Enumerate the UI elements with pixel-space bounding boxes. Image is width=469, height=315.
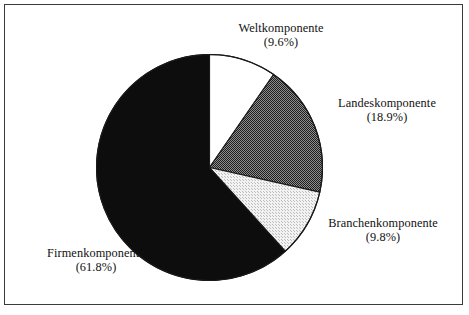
pie-label-landeskomponente-percent: (18.9%) — [313, 111, 461, 125]
pie-label-branchenkomponente-name: Branchenkomponente — [303, 217, 463, 231]
pie-label-branchenkomponente-percent: (9.8%) — [303, 231, 463, 245]
pie-label-weltkomponente-name: Weltkomponente — [215, 22, 347, 36]
pie-label-firmenkomponente-percent: (61.8%) — [20, 261, 172, 275]
pie-label-firmenkomponente: Firmenkomponente (61.8%) — [20, 247, 172, 275]
pie-label-landeskomponente: Landeskomponente (18.9%) — [313, 97, 461, 125]
chart-plot-area: Weltkomponente (9.6%) Landeskomponente (… — [0, 0, 469, 315]
pie-label-branchenkomponente: Branchenkomponente (9.8%) — [303, 217, 463, 245]
pie-label-weltkomponente-percent: (9.6%) — [215, 36, 347, 50]
pie-label-weltkomponente: Weltkomponente (9.6%) — [215, 22, 347, 50]
pie-chart-figure: Weltkomponente (9.6%) Landeskomponente (… — [0, 0, 469, 315]
pie-label-firmenkomponente-name: Firmenkomponente — [20, 247, 172, 261]
pie-label-landeskomponente-name: Landeskomponente — [313, 97, 461, 111]
